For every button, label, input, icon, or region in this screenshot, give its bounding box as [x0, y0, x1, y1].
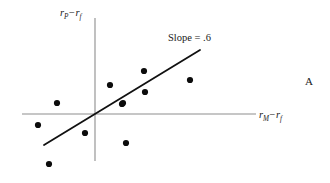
x-axis-operator: −: [269, 109, 276, 120]
axes-group: [22, 18, 256, 161]
data-point: [123, 140, 129, 146]
data-point: [107, 82, 113, 88]
data-point: [141, 68, 147, 74]
data-point: [54, 100, 60, 106]
x-axis-label: rM−rf: [259, 110, 282, 123]
x-axis-sub-2: f: [280, 115, 282, 123]
plot-canvas: [0, 0, 330, 183]
data-point: [142, 89, 148, 95]
regression-line: [44, 50, 200, 145]
data-point: [35, 122, 41, 128]
scatter-plot-figure: rP−rf rM−rf Slope = .6 A: [0, 0, 330, 183]
data-point: [82, 130, 88, 136]
data-point: [119, 101, 125, 107]
data-point: [187, 77, 193, 83]
panel-letter: A: [305, 76, 313, 87]
y-axis-label: rP−rf: [60, 8, 82, 21]
regression-line-group: [44, 50, 200, 145]
slope-annotation: Slope = .6: [168, 33, 211, 44]
y-axis-sub-2: f: [80, 13, 82, 21]
data-points-group: [35, 68, 193, 167]
data-point: [46, 161, 52, 167]
